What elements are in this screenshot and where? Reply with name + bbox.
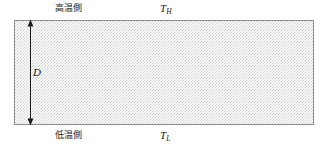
cold-temperature-symbol: TL [160, 130, 170, 143]
thickness-label: D [33, 67, 41, 78]
hot-temperature-subscript: H [166, 7, 171, 16]
thermal-slab-figure: 高温側 TH 低温側 TL D [0, 0, 325, 152]
cold-side-label: 低温側 [55, 131, 83, 140]
hot-side-label: 高温側 [55, 4, 83, 13]
cold-temperature-subscript: L [166, 134, 170, 143]
hot-temperature-symbol: TH [160, 3, 172, 16]
hatched-slab [14, 20, 314, 125]
